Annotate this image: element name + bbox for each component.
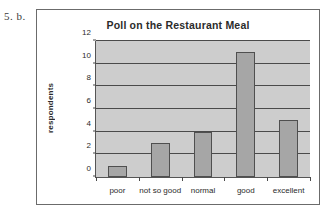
bar[interactable] — [236, 52, 255, 177]
bar-slot — [139, 41, 182, 177]
bar[interactable] — [279, 120, 298, 177]
x-axis-tick-mark — [224, 177, 225, 181]
bar[interactable] — [108, 166, 127, 177]
y-axis-tick-label: 6 — [87, 96, 91, 105]
chart-title: Poll on the Restaurant Meal — [37, 19, 319, 31]
bar[interactable] — [151, 143, 170, 177]
x-axis-category-label: not so good — [139, 186, 181, 195]
bar[interactable] — [194, 132, 213, 177]
bar-slot — [224, 41, 267, 177]
x-axis-category-label: poor — [109, 186, 125, 195]
bar-slot — [182, 41, 225, 177]
question-number-label: 5. b. — [4, 10, 26, 22]
x-axis-category-label: good — [237, 186, 255, 195]
y-axis-tick-label: 0 — [87, 164, 91, 173]
bar-slot — [96, 41, 139, 177]
x-axis-tick-mark — [310, 177, 311, 181]
x-axis-tick-mark — [182, 177, 183, 181]
x-axis-tick-mark — [139, 177, 140, 181]
x-axis-tick-mark — [267, 177, 268, 181]
x-axis-category-label: normal — [191, 186, 215, 195]
x-axis-category-label: excellent — [273, 186, 305, 195]
chart-frame: Poll on the Restaurant Meal respondents … — [36, 9, 320, 205]
y-axis-tick-label: 8 — [87, 73, 91, 82]
bar-slot — [267, 41, 310, 177]
y-axis-tick-label: 10 — [82, 50, 91, 59]
y-axis-title: respondents — [45, 66, 57, 150]
y-axis-tick-label: 2 — [87, 141, 91, 150]
y-axis-tick-label: 12 — [82, 28, 91, 37]
plot-area: 024681012 poornot so goodnormalgoodexcel… — [95, 41, 310, 178]
x-axis-tick-mark — [96, 177, 97, 181]
y-axis-tick-label: 4 — [87, 118, 91, 127]
